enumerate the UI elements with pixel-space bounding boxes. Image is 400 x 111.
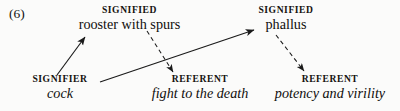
- node-signified-right: SIGNIFIED phallus: [236, 5, 336, 33]
- node-term-label: potency and virility: [262, 86, 398, 102]
- node-kind-label: REFERENT: [262, 74, 398, 85]
- arrow-signified-left-to-referent-mid: [147, 31, 173, 72]
- node-term-label: rooster with spurs: [62, 17, 197, 33]
- node-kind-label: SIGNIFIED: [62, 5, 197, 16]
- node-term-label: fight to the death: [134, 86, 266, 102]
- node-kind-label: REFERENT: [134, 74, 266, 85]
- semiotic-triangle-figure: (6) SIGNIFIED rooster with spurs SIGNIFI…: [0, 0, 400, 111]
- node-signifier: SIGNIFIER cock: [6, 74, 114, 102]
- arrow-signified-right-to-referent-right: [276, 35, 304, 71]
- node-referent-right: REFERENT potency and virility: [262, 74, 398, 102]
- arrow-signifier-to-signified-left: [57, 37, 85, 75]
- node-signified-left: SIGNIFIED rooster with spurs: [62, 5, 197, 33]
- node-kind-label: SIGNIFIED: [236, 5, 336, 16]
- node-term-label: phallus: [236, 17, 336, 33]
- node-term-label: cock: [6, 86, 114, 102]
- node-kind-label: SIGNIFIER: [6, 74, 114, 85]
- node-referent-mid: REFERENT fight to the death: [134, 74, 266, 102]
